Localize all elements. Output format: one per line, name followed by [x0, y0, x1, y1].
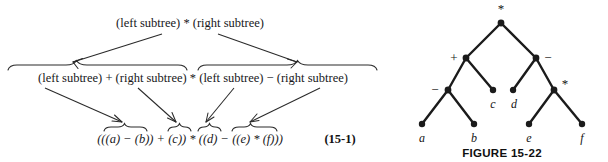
figure-root: (left subtree) * (right subtree) (left s… [0, 0, 608, 162]
node-label-sub: − [431, 82, 438, 97]
brace-row3-ef [232, 124, 277, 132]
node-label-a: a [419, 131, 425, 145]
brace-row2-left [8, 61, 187, 71]
node-label-c: c [490, 97, 496, 111]
figure-caption: FIGURE 15-22 [462, 147, 542, 159]
node-dot-c [490, 87, 496, 93]
node-dot-minus [533, 55, 540, 62]
edge-root-minus [501, 23, 536, 58]
node-label-minus: − [544, 50, 551, 65]
node-dot-sub [445, 87, 452, 94]
arrow-top-left [73, 34, 162, 69]
equation-number: (15-1) [324, 132, 355, 146]
edge-sub-b [448, 90, 474, 124]
node-dot-d [510, 87, 516, 93]
arrow-mid-4 [250, 88, 320, 122]
brace-row3-c [168, 124, 191, 132]
arrow-top-right [218, 34, 297, 68]
node-label-mul2: * [562, 76, 569, 91]
brace-row3-d [198, 124, 221, 132]
node-dot-a [419, 121, 425, 127]
brace-row2-right [198, 61, 377, 71]
node-dot-e [526, 121, 532, 127]
node-dot-root [498, 20, 505, 27]
expression-tree-canvas: * + − − * c d a b e f FIGURE 15-22 [390, 0, 608, 162]
arrow-mid-1 [45, 88, 122, 122]
arrow-mid-3 [206, 88, 234, 122]
edge-plus-c [466, 58, 493, 90]
derivation-canvas: (left subtree) * (right subtree) (left s… [0, 0, 390, 162]
edge-mul2-f [554, 90, 582, 124]
expression-tree-panel: * + − − * c d a b e f FIGURE 15-22 [390, 0, 608, 162]
row2-text: (left subtree) + (right subtree) * (left… [38, 71, 348, 85]
node-label-root: * [498, 1, 505, 16]
node-label-f: f [580, 131, 585, 145]
node-dot-f [579, 121, 585, 127]
tree-edges [422, 23, 582, 124]
tree-nodes [419, 20, 585, 128]
arrow-mid-2 [138, 88, 176, 122]
node-dot-plus [463, 55, 470, 62]
node-dot-mul2 [551, 87, 558, 94]
edge-root-plus [466, 23, 501, 58]
node-label-plus: + [450, 50, 457, 65]
node-label-e: e [526, 131, 532, 145]
node-dot-b [471, 121, 477, 127]
row3-formula: (((a) − (b)) + (c)) * ((d) − ((e) * (f))… [97, 132, 283, 146]
row1-text: (left subtree) * (right subtree) [116, 16, 264, 30]
brace-row3-ab [104, 124, 147, 132]
node-label-b: b [471, 131, 477, 145]
edge-minus-d [513, 58, 536, 90]
edge-mul2-e [529, 90, 554, 124]
node-label-d: d [511, 97, 518, 111]
derivation-panel: (left subtree) * (right subtree) (left s… [0, 0, 390, 162]
